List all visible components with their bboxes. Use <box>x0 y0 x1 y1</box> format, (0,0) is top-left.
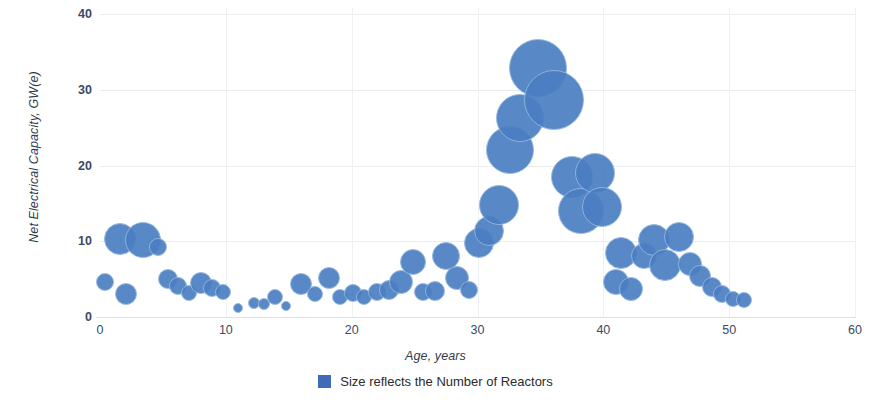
bubble-point[interactable] <box>115 283 137 305</box>
bubble-point[interactable] <box>479 185 519 225</box>
bubble-point[interactable] <box>664 222 694 252</box>
bubble-point[interactable] <box>649 249 681 281</box>
bubble-point[interactable] <box>96 273 114 291</box>
bubble-chart: Net Electrical Capacity, GW(e) 010203040… <box>0 0 871 401</box>
bubble-point[interactable] <box>215 284 231 300</box>
chart-legend: Size reflects the Number of Reactors <box>0 374 871 389</box>
bubble-point[interactable] <box>582 187 622 227</box>
bubble-point[interactable] <box>400 249 426 275</box>
bubble-point[interactable] <box>425 281 445 301</box>
bubble-point[interactable] <box>281 301 291 311</box>
bubble-point[interactable] <box>524 70 584 130</box>
plot-area <box>0 0 871 340</box>
x-axis-title: Age, years <box>0 349 871 363</box>
bubble-point[interactable] <box>619 277 643 301</box>
legend-label: Size reflects the Number of Reactors <box>340 374 552 389</box>
bubble-point[interactable] <box>149 238 167 256</box>
bubble-point[interactable] <box>307 286 323 302</box>
legend-swatch-icon <box>318 375 331 388</box>
bubble-point[interactable] <box>736 292 752 308</box>
bubble-point[interactable] <box>318 267 340 289</box>
bubble-point[interactable] <box>460 281 478 299</box>
bubble-point[interactable] <box>575 153 615 193</box>
bubble-point[interactable] <box>233 303 243 313</box>
